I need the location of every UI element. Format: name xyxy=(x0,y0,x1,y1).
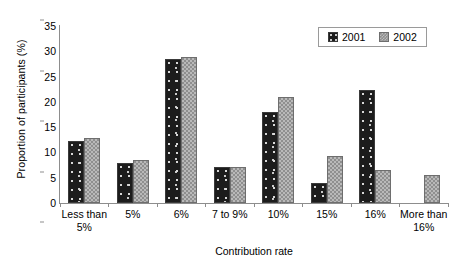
x-axis-title: Contribution rate xyxy=(60,245,448,257)
series-2002-swatch-icon xyxy=(379,32,389,42)
bar-2001-10- xyxy=(262,112,278,203)
x-tick-label: Less than 5% xyxy=(60,208,109,233)
bar-pair xyxy=(303,26,352,203)
x-tick-label: 5% xyxy=(109,208,158,233)
bar-2002-10- xyxy=(278,97,294,203)
x-tick-mark xyxy=(448,203,449,207)
x-tick-label: 6% xyxy=(157,208,206,233)
series-2001-swatch-icon xyxy=(328,32,338,42)
x-axis-tick-labels: Less than 5%5%6%7 to 9%10%15%16%More tha… xyxy=(60,208,448,233)
bar-group xyxy=(157,26,206,203)
y-tick-mark xyxy=(40,20,44,21)
y-tick-label: 0 xyxy=(50,197,56,209)
x-tick-label: 16% xyxy=(351,208,400,233)
y-tick-label: 15 xyxy=(44,121,56,133)
bar-2002-5- xyxy=(133,160,149,203)
y-tick-label: 5 xyxy=(50,172,56,184)
x-tick-mark xyxy=(351,203,352,207)
y-tick-mark xyxy=(40,222,44,223)
legend-label-2002: 2002 xyxy=(393,31,416,43)
x-tick-mark xyxy=(108,203,109,207)
legend-item-2002: 2002 xyxy=(379,31,416,43)
bar-2001-16- xyxy=(359,90,375,203)
bar-group xyxy=(109,26,158,203)
bar-group xyxy=(351,26,400,203)
bar-group xyxy=(303,26,352,203)
x-tick-mark xyxy=(399,203,400,207)
y-tick-label: 30 xyxy=(44,45,56,57)
x-tick-mark xyxy=(254,203,255,207)
bar-group xyxy=(60,26,109,203)
y-tick-label: 35 xyxy=(44,20,56,32)
y-axis-title: Proportion of participants (%) xyxy=(15,19,27,199)
plot-area: 05101520253035 xyxy=(60,26,448,203)
y-tick-label: 10 xyxy=(44,146,56,158)
x-tick-label: 15% xyxy=(303,208,352,233)
bar-2001-15- xyxy=(311,183,327,203)
bar-2001-less-than-5- xyxy=(68,141,84,203)
y-tick-label: 20 xyxy=(44,96,56,108)
bar-2002-15- xyxy=(327,156,343,203)
bar-pair xyxy=(60,26,109,203)
bar-pair xyxy=(109,26,158,203)
bar-pair xyxy=(254,26,303,203)
bar-chart: Proportion of participants (%) 051015202… xyxy=(0,0,458,265)
y-tick-mark xyxy=(40,121,44,122)
x-tick-mark xyxy=(205,203,206,207)
bar-2002-16- xyxy=(375,170,391,203)
y-tick-mark xyxy=(40,70,44,71)
x-tick-label: More than 16% xyxy=(400,208,449,233)
x-tick-mark xyxy=(60,203,61,207)
bar-pair xyxy=(400,26,449,203)
bar-pair xyxy=(157,26,206,203)
bar-2002-more-than-16- xyxy=(424,175,440,203)
bar-pair xyxy=(206,26,255,203)
bar-2001-5- xyxy=(117,163,133,203)
bar-2002-6- xyxy=(181,57,197,203)
bar-pair xyxy=(351,26,400,203)
bar-group xyxy=(206,26,255,203)
bar-group xyxy=(254,26,303,203)
bar-2002-7-to-9- xyxy=(230,167,246,203)
bar-group xyxy=(400,26,449,203)
x-tick-mark xyxy=(302,203,303,207)
bar-2001-6- xyxy=(165,59,181,203)
bar-groups xyxy=(60,26,448,203)
y-tick-mark xyxy=(40,171,44,172)
x-tick-label: 7 to 9% xyxy=(206,208,255,233)
y-tick-label: 25 xyxy=(44,71,56,83)
bar-2001-7-to-9- xyxy=(214,167,230,203)
legend-item-2001: 2001 xyxy=(328,31,365,43)
legend-label-2001: 2001 xyxy=(342,31,365,43)
x-tick-label: 10% xyxy=(254,208,303,233)
chart-legend: 2001 2002 xyxy=(318,27,427,47)
bar-2002-less-than-5- xyxy=(84,138,100,203)
x-tick-mark xyxy=(157,203,158,207)
